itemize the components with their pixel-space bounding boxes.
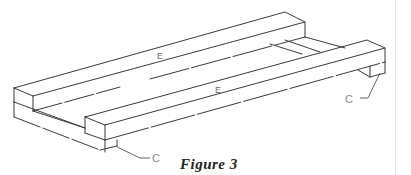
support-block-left xyxy=(100,140,117,152)
label-e-upper: E xyxy=(157,51,163,61)
label-e-lower: E xyxy=(215,85,221,95)
figure-caption: Figure 3 xyxy=(180,156,238,173)
isometric-frame-drawing: E E C C xyxy=(0,0,411,175)
label-c-left: C xyxy=(152,152,160,164)
leader-left xyxy=(117,147,150,158)
label-c-right: C xyxy=(345,93,353,105)
cross-member xyxy=(270,37,345,54)
support-block-right xyxy=(358,62,385,77)
base-rail xyxy=(14,102,100,150)
